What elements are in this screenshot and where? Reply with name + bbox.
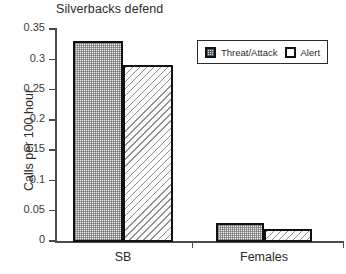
y-tick-label: 0.35: [24, 21, 45, 33]
y-tick-label: 0.1: [30, 173, 45, 185]
legend-swatch-alert: [285, 47, 296, 58]
y-tick-label: 0.25: [24, 82, 45, 94]
legend-swatch-threat-attack: [205, 47, 216, 58]
chart-figure: Silverbacks defend Calls per 100 hour 0.…: [0, 0, 346, 274]
x-category-label-sb: SB: [115, 250, 132, 264]
chart-legend: Threat/Attack Alert: [197, 40, 328, 64]
y-tick: 0.3: [49, 59, 55, 60]
x-tick: [343, 242, 344, 248]
y-tick: 0.1: [49, 180, 55, 181]
y-tick: 0: [49, 240, 55, 241]
y-tick: 0.2: [49, 119, 55, 120]
y-tick-label: 0.05: [24, 203, 45, 215]
y-tick: 0.25: [49, 89, 55, 90]
y-tick: 0.15: [49, 149, 55, 150]
legend-item-alert: Alert: [285, 47, 321, 58]
legend-label-threat-attack: Threat/Attack: [221, 47, 278, 58]
legend-label-alert: Alert: [301, 47, 321, 58]
x-category-label-females: Females: [240, 250, 288, 264]
legend-item-threat-attack: Threat/Attack: [205, 47, 278, 58]
bar-sb-threat-attack: [73, 41, 123, 242]
y-tick-label: 0: [39, 233, 45, 245]
y-tick-label: 0.15: [24, 142, 45, 154]
chart-title: Silverbacks defend: [56, 2, 163, 16]
bar-females-threat-attack: [216, 223, 264, 242]
y-axis-line: [55, 28, 57, 242]
y-tick-label: 0.2: [30, 112, 45, 124]
y-tick-label: 0.3: [30, 52, 45, 64]
y-tick: 0.35: [49, 28, 55, 29]
bar-females-alert: [264, 229, 312, 242]
bar-sb-alert: [123, 65, 173, 242]
x-tick: [192, 242, 193, 248]
y-tick: 0.05: [49, 210, 55, 211]
